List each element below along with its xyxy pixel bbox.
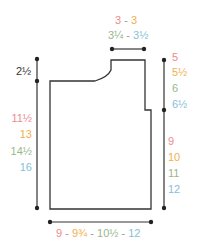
size-value: 12 [168,183,180,195]
size-value: 5 [172,51,178,63]
size-value: 9 [168,135,174,147]
dimension-dot [48,220,52,224]
size-value: 12 [128,227,140,239]
size-value: 3½ [133,29,148,41]
top-shoulder-label-row1: 3 - 3 [115,14,137,26]
size-value: 3 [115,14,121,26]
size-value: 6½ [172,98,187,110]
size-value: 10 [168,151,180,163]
dimension-dot [162,58,166,62]
size-value: 10½ [97,227,118,239]
dimension-dot [162,206,166,210]
size-value: 14½ [2,145,32,157]
bottom-width-label: 9 - 9¾ - 10½ - 12 [56,227,140,239]
size-value: 13 [2,128,32,140]
dimension-dot [142,47,146,51]
dimension-dot [35,57,39,61]
size-value: 3 [131,14,137,26]
size-value: 6 [172,82,178,94]
size-value: 16 [2,161,32,173]
dimension-dot [110,47,114,51]
size-value: 9¾ [72,227,87,239]
size-value: 5½ [172,66,187,78]
armhole-depth-label: 2½ [16,65,31,77]
dimension-dot [35,79,39,83]
dimension-dot [149,220,153,224]
dimension-dot [35,206,39,210]
size-value: 3¼ [108,29,123,41]
garment-outline [50,60,151,209]
top-shoulder-label-row2: 3¼ - 3½ [108,29,148,41]
size-value: 11 [168,167,179,179]
dimension-dot [162,108,166,112]
size-value: 9 [56,227,62,239]
size-value: 11½ [2,112,32,124]
